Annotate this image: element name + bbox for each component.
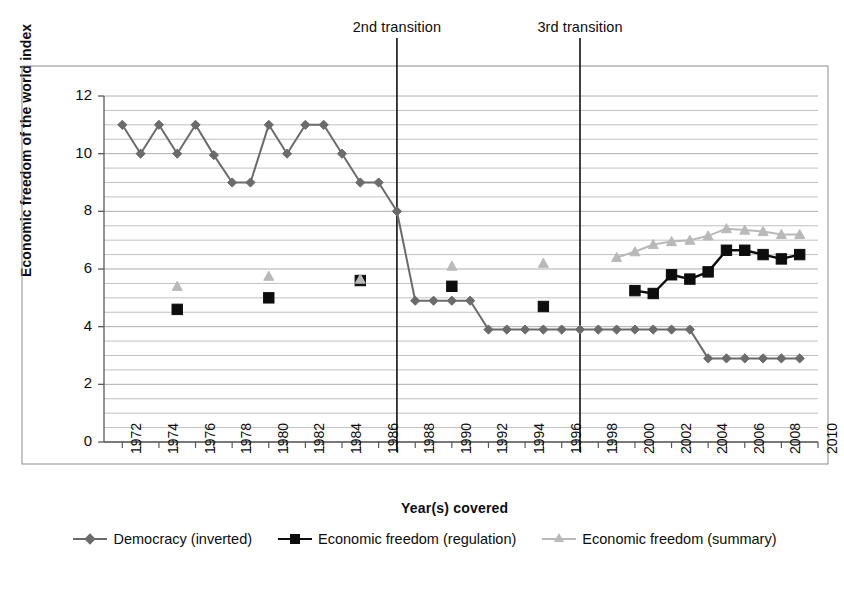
data-point-diamond	[246, 178, 255, 187]
chart-frame	[22, 66, 828, 464]
legend-marker-diamond	[85, 533, 96, 544]
x-axis-tick-label: 2002	[678, 423, 694, 454]
x-axis-tick-label: 1990	[458, 423, 474, 454]
x-axis-tick-label: 2008	[787, 423, 803, 454]
x-axis-tick-label: 1978	[238, 423, 254, 454]
data-point-triangle	[447, 261, 457, 270]
x-axis-tick-label: 1972	[128, 423, 144, 454]
data-point-square	[685, 274, 695, 284]
data-point-square	[447, 281, 457, 291]
x-axis-tick-label: 1996	[568, 423, 584, 454]
x-axis-tick-label: 1982	[311, 423, 327, 454]
data-point-square	[172, 304, 182, 314]
data-point-square	[648, 288, 658, 298]
legend-key-triangle-icon	[542, 532, 576, 546]
legend-item-0: Democracy (inverted)	[73, 531, 252, 547]
x-axis-tick-label: 2000	[641, 423, 657, 454]
data-point-square	[264, 293, 274, 303]
data-point-square	[721, 245, 731, 255]
legend-marker-square	[290, 534, 300, 544]
legend-label: Economic freedom (summary)	[582, 531, 776, 547]
series-line-square	[635, 250, 800, 293]
series-line-diamond	[122, 125, 799, 359]
x-axis-tick-label: 2004	[714, 423, 730, 454]
x-axis-tick-label: 1986	[385, 423, 401, 454]
data-point-square	[538, 301, 548, 311]
data-point-triangle	[264, 271, 274, 280]
x-axis-tick-label: 1974	[165, 423, 181, 454]
legend-label: Economic freedom (regulation)	[318, 531, 516, 547]
data-point-triangle	[172, 281, 182, 290]
x-axis-tick-label: 2006	[751, 423, 767, 454]
x-axis-tick-label: 1976	[202, 423, 218, 454]
legend-marker-triangle	[554, 533, 564, 542]
legend-label: Democracy (inverted)	[113, 531, 252, 547]
legend-key-diamond-icon	[73, 532, 107, 546]
legend-item-1: Economic freedom (regulation)	[278, 531, 516, 547]
data-point-square	[776, 254, 786, 264]
x-axis-tick-label: 2010	[824, 423, 840, 454]
chart-figure: 2nd transition 3rd transition Economic f…	[0, 0, 844, 610]
y-axis-tick-label: 4	[48, 317, 92, 334]
chart-legend: Democracy (inverted)Economic freedom (re…	[40, 531, 810, 547]
y-axis-tick-label: 0	[48, 432, 92, 449]
y-axis-tick-label: 8	[48, 201, 92, 218]
data-point-square	[630, 285, 640, 295]
plot-area	[0, 0, 844, 610]
data-point-square	[740, 245, 750, 255]
x-axis-tick-label: 1984	[348, 423, 364, 454]
y-axis-tick-label: 12	[48, 86, 92, 103]
y-axis-tick-label: 10	[48, 144, 92, 161]
x-axis-tick-label: 1980	[275, 423, 291, 454]
x-axis-tick-label: 1988	[421, 423, 437, 454]
data-point-square	[666, 270, 676, 280]
x-axis-tick-label: 1992	[494, 423, 510, 454]
y-axis-tick-label: 2	[48, 374, 92, 391]
data-point-square	[758, 249, 768, 259]
x-axis-tick-label: 1994	[531, 423, 547, 454]
legend-key-square-icon	[278, 532, 312, 546]
data-point-square	[703, 267, 713, 277]
y-axis-tick-label: 6	[48, 259, 92, 276]
x-axis-tick-label: 1998	[604, 423, 620, 454]
legend-item-2: Economic freedom (summary)	[542, 531, 776, 547]
data-point-triangle	[538, 258, 548, 267]
data-point-square	[794, 249, 804, 259]
